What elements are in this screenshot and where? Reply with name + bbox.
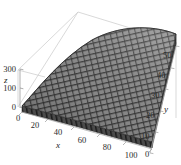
x-tick-label-100: 100 — [125, 150, 138, 160]
x-tick-label-40: 40 — [54, 127, 63, 137]
x-axis-title: x — [55, 140, 60, 150]
x-tick-label-60: 60 — [78, 135, 87, 145]
z-axis-ticks — [20, 69, 23, 108]
y-tick-label-20: 20 — [146, 110, 155, 120]
x-tick-label-0: 0 — [16, 113, 20, 123]
y-tick-label-0: 0 — [145, 149, 149, 159]
y-tick-label-50: 50 — [163, 50, 172, 60]
y-tick-label-40: 40 — [157, 70, 166, 80]
z-tick-label-0: 0 — [12, 102, 16, 112]
plot-canvas: 300 100 0 z — [0, 0, 181, 165]
surface-mesh — [22, 28, 176, 142]
y-tick-label-10: 10 — [141, 131, 150, 141]
surface-plot-figure: 300 100 0 z — [0, 0, 181, 165]
y-axis-title: y — [163, 104, 168, 114]
z-axis-title: z — [3, 75, 8, 85]
y-tick-label-30: 30 — [151, 90, 160, 100]
x-tick-label-80: 80 — [103, 142, 112, 152]
z-tick-label-300: 300 — [3, 64, 16, 74]
x-tick-label-20: 20 — [31, 120, 40, 130]
